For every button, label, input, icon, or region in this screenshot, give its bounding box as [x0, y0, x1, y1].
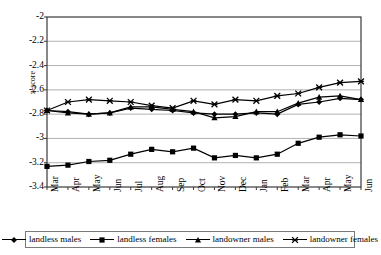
x-tick-label: Oct: [198, 178, 208, 192]
legend-entry: landowner males: [186, 235, 274, 245]
y-tick-label: -3.4: [16, 182, 44, 192]
data-point-marker: [292, 237, 298, 243]
legend-marker-diamond-icon: [2, 235, 26, 245]
y-tick-label: -2.6: [16, 85, 44, 95]
legend-label: landowner males: [213, 235, 274, 244]
legend-label: landless males: [29, 235, 81, 244]
data-point-marker: [194, 236, 200, 242]
x-tick-label: Feb: [281, 178, 291, 192]
data-point-marker: [337, 132, 342, 137]
data-point-marker: [100, 237, 105, 242]
data-point-marker: [191, 146, 196, 151]
data-point-marker: [86, 97, 92, 103]
plot-area-wrapper: z-score -2-2.2-2.4-2.6-2.8-3-3.2-3.4 Mar…: [0, 0, 381, 232]
data-point-marker: [275, 152, 280, 157]
data-point-marker: [316, 99, 322, 105]
legend-entry: landless females: [90, 235, 176, 245]
y-tick-label: -2.8: [16, 109, 44, 119]
data-point-marker: [253, 98, 259, 104]
data-point-marker: [254, 155, 259, 160]
x-tick-label: Aug: [156, 176, 166, 192]
data-point-marker: [44, 164, 49, 169]
chart-legend: landless maleslandless femaleslandowner …: [25, 231, 355, 248]
data-series: [44, 132, 363, 169]
data-series: [44, 78, 364, 113]
x-tick-label: Sep: [177, 178, 187, 192]
series-line: [47, 98, 361, 114]
y-tick-label: -2: [16, 12, 44, 22]
legend-label: landowner females: [310, 235, 378, 244]
data-point-marker: [317, 135, 322, 140]
x-tick-label: Apr: [323, 177, 333, 192]
legend-entry: landless males: [2, 235, 81, 245]
x-tick-label: Jan: [260, 179, 270, 192]
data-point-marker: [128, 152, 133, 157]
y-tick-label: -2.4: [16, 61, 44, 71]
data-point-marker: [107, 98, 113, 104]
y-axis-tick-labels: -2-2.2-2.4-2.6-2.8-3-3.2-3.4: [12, 0, 44, 200]
x-tick-label: Dec: [239, 177, 249, 192]
series-line: [47, 81, 361, 110]
data-point-marker: [212, 155, 217, 160]
data-point-marker: [107, 158, 112, 163]
legend-marker-square-icon: [90, 235, 114, 245]
data-point-marker: [86, 159, 91, 164]
data-point-marker: [274, 93, 280, 99]
data-point-marker: [191, 98, 197, 104]
data-point-marker: [11, 237, 17, 243]
y-tick-label: -2.2: [16, 36, 44, 46]
x-tick-label: May: [93, 175, 103, 192]
x-tick-label: Mar: [302, 176, 312, 192]
data-point-marker: [65, 99, 71, 105]
series-line: [47, 135, 361, 167]
y-tick-label: -3: [16, 133, 44, 143]
legend-marker-triangle-icon: [186, 235, 210, 245]
x-tick-label: Mar: [51, 176, 61, 192]
data-point-marker: [358, 133, 363, 138]
y-tick-label: -3.2: [16, 158, 44, 168]
legend-entry: landowner females: [283, 235, 378, 245]
x-tick-label: Apr: [72, 177, 82, 192]
legend-marker-star-icon: [283, 235, 307, 245]
data-point-marker: [233, 97, 239, 103]
chart-plot: [0, 0, 381, 232]
data-point-marker: [296, 141, 301, 146]
x-tick-label: Nov: [218, 176, 228, 192]
data-point-marker: [170, 149, 175, 154]
x-tick-label: Jun: [365, 179, 375, 192]
data-point-marker: [212, 102, 218, 108]
data-point-marker: [233, 153, 238, 158]
series-layer: [44, 78, 364, 168]
data-point-marker: [149, 147, 154, 152]
x-tick-label: Jun: [114, 179, 124, 192]
x-tick-label: May: [344, 175, 354, 192]
data-point-marker: [65, 163, 70, 168]
legend-label: landless females: [117, 235, 176, 244]
x-tick-label: Jul: [135, 181, 145, 192]
data-point-marker: [337, 80, 343, 86]
data-point-marker: [295, 91, 301, 97]
chart-figure: z-score -2-2.2-2.4-2.6-2.8-3-3.2-3.4 Mar…: [0, 0, 381, 255]
